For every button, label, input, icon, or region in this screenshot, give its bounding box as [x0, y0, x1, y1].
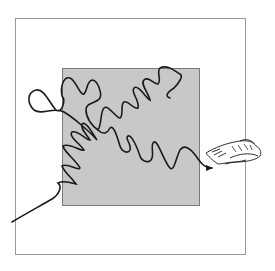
shell-icon	[0, 0, 275, 271]
diagram-canvas	[0, 0, 275, 271]
